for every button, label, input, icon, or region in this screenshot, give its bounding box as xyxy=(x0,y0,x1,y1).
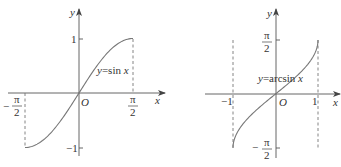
frac-num: π xyxy=(264,29,270,41)
diagram-canvas: y 1 −1 O x y=sin x π 2 − π 2 y −1 xyxy=(0,0,341,167)
frac-num: π xyxy=(130,93,136,105)
sin-y-tick-label-1: 1 xyxy=(71,33,77,45)
arcsin-origin-label: O xyxy=(279,96,287,108)
frac-sign: − xyxy=(252,141,258,153)
frac-den: 2 xyxy=(14,106,20,118)
arcsin-fn-x: x xyxy=(297,72,303,84)
sin-y-tick-label-neg1: −1 xyxy=(66,142,78,154)
frac-den: 2 xyxy=(264,149,270,161)
sin-x-axis-label: x xyxy=(154,94,160,106)
arcsin-y-tick-pi-over-2: π 2 xyxy=(262,29,272,54)
frac-sign: − xyxy=(3,100,9,112)
sin-fn-x: x xyxy=(123,64,129,76)
sin-function-label: y=sin x xyxy=(96,64,129,76)
sin-fn-body: =sin xyxy=(102,64,124,76)
arcsin-x-tick-label-1: 1 xyxy=(312,95,318,107)
frac-den: 2 xyxy=(130,106,136,118)
arcsin-graph: y −1 1 O x y=arcsin x π 2 − π 2 xyxy=(205,7,340,161)
sin-graph: y 1 −1 O x y=sin x π 2 − π 2 xyxy=(3,6,165,156)
sin-y-axis-label: y xyxy=(69,6,75,18)
arcsin-x-tick-label-neg1: −1 xyxy=(221,95,233,107)
frac-den: 2 xyxy=(264,42,270,54)
arcsin-function-label: y=arcsin x xyxy=(257,72,303,84)
sin-origin-label: O xyxy=(81,96,89,108)
arcsin-fn-body: =arcsin xyxy=(263,72,298,84)
arcsin-y-tick-neg-pi-over-2: − π 2 xyxy=(252,136,272,161)
frac-num: π xyxy=(14,93,20,105)
arcsin-y-axis-label: y xyxy=(266,7,272,19)
frac-num: π xyxy=(264,136,270,148)
arcsin-x-axis-label: x xyxy=(332,96,338,108)
sin-x-tick-neg-pi-over-2: − π 2 xyxy=(3,93,22,118)
sin-x-tick-pi-over-2: π 2 xyxy=(128,93,138,118)
